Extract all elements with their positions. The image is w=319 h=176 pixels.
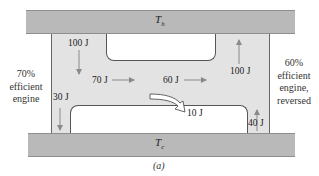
curved-arrow-icon (150, 94, 185, 112)
label-net-work: 60 J (163, 75, 179, 86)
figure-caption: (a) (153, 160, 165, 171)
engine-text: engine (4, 93, 48, 106)
efficiency-text: efficient (4, 81, 48, 94)
left-engine-label: 70% efficient engine (4, 68, 48, 106)
reversed-text: reversed (270, 95, 318, 108)
label-cold-to-right: 40 J (248, 118, 264, 129)
label-leftover-work: 10 J (187, 108, 203, 119)
efficiency-value: 60% (270, 57, 318, 70)
efficiency-value: 70% (4, 68, 48, 81)
label-right-to-hot: 100 J (230, 66, 250, 77)
right-engine-label: 60% efficient engine, reversed (270, 57, 318, 107)
label-hot-to-left: 100 J (68, 38, 88, 49)
label-left-work: 70 J (92, 75, 108, 86)
efficiency-text: efficient (270, 70, 318, 83)
label-left-to-cold: 30 J (53, 92, 69, 103)
engine-text: engine, (270, 82, 318, 95)
